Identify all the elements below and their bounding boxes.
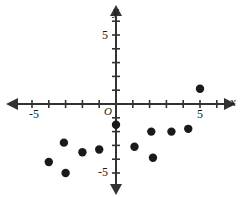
data-point: [45, 158, 53, 166]
scatter-plot-figure: y x O -5 5 5 -5: [0, 0, 246, 197]
data-point: [167, 127, 175, 135]
data-point: [130, 143, 138, 151]
data-point: [95, 145, 103, 153]
coordinate-plane-svg: [0, 0, 246, 197]
y-tick-label-neg5: -5: [94, 166, 112, 178]
data-point: [147, 127, 155, 135]
data-point: [196, 85, 204, 93]
data-point: [78, 148, 86, 156]
x-axis-label: x: [230, 95, 236, 108]
data-point: [184, 125, 192, 133]
data-point: [149, 154, 157, 162]
data-point: [60, 138, 68, 146]
data-point: [61, 169, 69, 177]
x-tick-label-neg5: -5: [25, 108, 43, 120]
data-points-group: [45, 85, 205, 178]
y-axis-label: y: [113, 4, 119, 17]
y-axis-arrow-down: [110, 184, 122, 195]
x-axis-arrow-left: [6, 98, 18, 110]
origin-label: O: [104, 106, 112, 117]
axes-group: [6, 5, 236, 195]
data-point: [112, 121, 120, 129]
y-tick-label-pos5: 5: [98, 29, 112, 41]
x-tick-label-pos5: 5: [193, 108, 207, 120]
